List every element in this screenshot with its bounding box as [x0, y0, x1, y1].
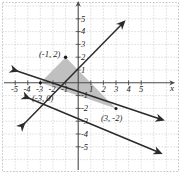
annotation-vertex-a: (-1, 2): [39, 50, 60, 59]
x-tick-label--1: -1: [61, 85, 68, 94]
x-tick-label--4: -4: [24, 85, 31, 94]
y-tick-label-2: 2: [81, 53, 85, 62]
y-tick-label-5: 5: [81, 15, 85, 24]
graph-figure: -5 -4 -3 -2 -1 1 2 3 4 5 5 4 3 2 1 -1 -2…: [0, 0, 181, 174]
x-tick-label-1: 1: [89, 85, 93, 94]
x-tick-label--5: -5: [11, 85, 18, 94]
x-tick-label-3: 3: [114, 85, 118, 94]
annotation-vertex-b: (-3, 0): [32, 94, 53, 103]
y-tick-label--2: -2: [81, 104, 88, 113]
annotation-vertex-c: (3, -2): [101, 114, 122, 123]
x-tick-label-4: 4: [127, 85, 131, 94]
y-tick-label-4: 4: [81, 27, 85, 36]
y-tick-label-1: 1: [81, 66, 85, 75]
x-tick-label-2: 2: [102, 85, 106, 94]
x-tick-label-5: 5: [139, 85, 143, 94]
y-tick-label--5: -5: [81, 143, 88, 152]
y-tick-label-3: 3: [81, 40, 85, 49]
y-tick-label--3: -3: [81, 117, 88, 126]
y-tick-label--1: -1: [81, 91, 88, 100]
x-axis-label: x: [170, 84, 174, 93]
y-tick-label--4: -4: [81, 130, 88, 139]
